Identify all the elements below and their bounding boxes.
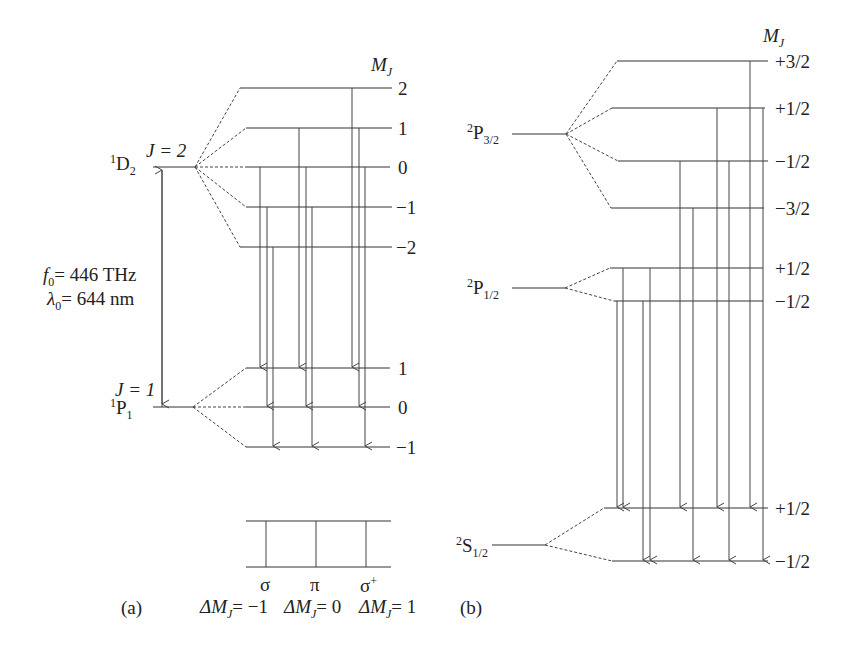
mj-label-p1-0: 0 — [398, 398, 408, 417]
p32-zeeman-fan — [566, 61, 618, 208]
s12-zeeman-fan — [545, 508, 612, 561]
panel-a-mj-header: MJ — [371, 55, 392, 78]
mj-label-p12-p1: +1/2 — [775, 259, 810, 278]
p12-sublevels — [610, 268, 763, 301]
plus-superscript: + — [370, 574, 377, 588]
frequency-value: = 446 THz — [54, 264, 136, 285]
sigma-minus-rule: ΔMJ= −1 — [200, 597, 268, 620]
mj-label-p1-m1: −1 — [396, 438, 416, 457]
p1-j-label: J = 1 — [115, 380, 155, 399]
wavelength-value: = 644 nm — [61, 288, 134, 309]
mj-label-p32-m1: −1/2 — [775, 152, 810, 171]
mj-label-d2-1: 1 — [398, 119, 408, 138]
energy-level-diagram — [0, 0, 856, 650]
d2-j-label: J = 2 — [146, 141, 186, 160]
mj-label-p32-m3: −3/2 — [775, 199, 810, 218]
term-letter: P — [473, 122, 484, 143]
panel-b-caption: (b) — [460, 598, 482, 617]
p12-zeeman-fan — [565, 268, 614, 301]
delta-m-value: = 1 — [391, 596, 416, 617]
d2-zeeman-fan — [195, 88, 246, 247]
mj-label-p1-1: 1 — [398, 359, 408, 378]
sigma-plus-rule: ΔMJ= 1 — [359, 597, 416, 620]
mj-symbol: M — [371, 54, 387, 75]
mj-label-p12-m1: −1/2 — [775, 292, 810, 311]
sigma-minus-symbol: σ — [260, 575, 270, 594]
mj-label-s12-p1: +1/2 — [775, 499, 810, 518]
pi-symbol: π — [310, 575, 320, 594]
panel-a-transitions — [260, 88, 365, 446]
mj-label-p32-p1: +1/2 — [775, 99, 810, 118]
p1-term-label: 1P1 — [110, 397, 133, 421]
term-j: 2 — [130, 164, 136, 178]
d2-sublevels — [240, 88, 392, 247]
p1-sublevels — [246, 368, 390, 447]
pi-rule: ΔMJ= 0 — [284, 597, 341, 620]
mj-label-p32-p3: +3/2 — [775, 52, 810, 71]
p12-term-label: 2P1/2 — [467, 277, 499, 301]
delta-m: ΔM — [359, 596, 386, 617]
wavelength-label: λ0= 644 nm — [47, 289, 134, 312]
term-j: 1 — [127, 408, 133, 422]
mj-subscript: J — [779, 36, 784, 50]
term-letter: P — [473, 277, 484, 298]
sigma-symbol: σ — [360, 575, 370, 596]
p32-sublevels — [611, 61, 768, 208]
panel-a — [153, 88, 392, 567]
s12-sublevels — [604, 508, 768, 561]
term-letter: D — [116, 153, 130, 174]
term-letter: P — [116, 397, 127, 418]
term-j: 3/2 — [484, 133, 499, 147]
mj-label-s12-m1: −1/2 — [775, 552, 810, 571]
wavelength-symbol: λ — [47, 288, 55, 309]
polarization-legend — [246, 521, 391, 567]
p32-term-label: 2P3/2 — [467, 122, 499, 146]
mj-symbol: M — [763, 25, 779, 46]
d2-term-label: 1D2 — [110, 153, 136, 177]
panel-b-transitions — [617, 61, 763, 560]
sigma-plus-symbol: σ+ — [360, 575, 377, 595]
delta-m-value: = 0 — [316, 596, 341, 617]
panel-a-caption: (a) — [121, 598, 142, 617]
mj-label-d2-m1: −1 — [396, 198, 416, 217]
delta-m: ΔM — [200, 596, 227, 617]
mj-subscript: J — [387, 65, 392, 79]
panel-b-mj-header: MJ — [763, 26, 784, 49]
mj-label-d2-2: 2 — [398, 79, 408, 98]
delta-m: ΔM — [284, 596, 311, 617]
panel-b — [492, 61, 768, 561]
term-letter: S — [462, 535, 473, 556]
mj-label-d2-m2: −2 — [396, 238, 416, 257]
frequency-label: f0= 446 THz — [43, 265, 136, 288]
p1-zeeman-fan — [193, 368, 246, 447]
mj-label-d2-0: 0 — [398, 158, 408, 177]
delta-m-value: = −1 — [232, 596, 268, 617]
term-j: 1/2 — [473, 546, 488, 560]
term-j: 1/2 — [484, 288, 499, 302]
s12-term-label: 2S1/2 — [456, 535, 488, 559]
